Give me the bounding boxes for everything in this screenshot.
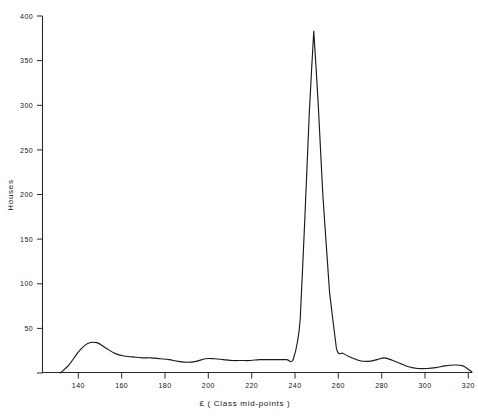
x-tick-label: 180 [159,382,172,389]
y-tick-label: 150 [20,236,33,243]
x-tick-label: 240 [289,382,302,389]
y-tick-label: 300 [20,102,33,109]
x-tick-label: 160 [115,382,128,389]
y-tick-label: 100 [20,280,33,287]
x-tick-label: 220 [245,382,258,389]
y-tick-label: 200 [20,191,33,198]
y-tick-label: 50 [24,325,33,332]
y-tick-label: 400 [20,13,33,20]
x-tick-label: 320 [462,382,475,389]
y-axis-title: Houses [6,179,15,210]
frequency-polygon-chart: 50 100 150 200 250 300 350 400 140 160 [0,0,478,416]
chart-canvas: 50 100 150 200 250 300 350 400 140 160 [0,0,478,416]
x-tick-label: 140 [72,382,85,389]
y-tick-label: 250 [20,147,33,154]
chart-background [0,0,478,416]
y-tick-label: 350 [20,57,33,64]
x-tick-label: 200 [202,382,215,389]
x-tick-label: 280 [375,382,388,389]
x-tick-label: 260 [332,382,345,389]
x-axis-title: £ ( Class mid-points ) [200,399,291,408]
x-tick-label: 300 [419,382,432,389]
